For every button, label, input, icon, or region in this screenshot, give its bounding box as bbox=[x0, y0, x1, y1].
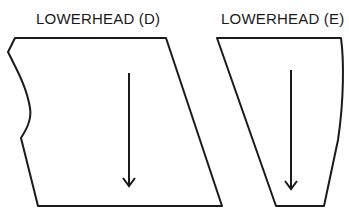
piece-d-grain-arrow-icon bbox=[123, 73, 135, 186]
piece-e-grain-arrow-icon bbox=[285, 70, 297, 189]
pattern-diagram bbox=[0, 0, 349, 220]
piece-d-outline bbox=[8, 38, 222, 206]
piece-e-outline bbox=[217, 38, 343, 206]
